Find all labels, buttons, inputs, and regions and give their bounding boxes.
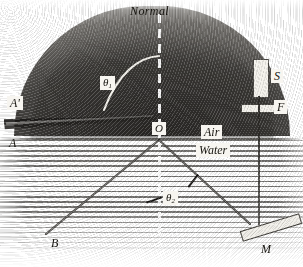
label-filter-f: F	[274, 100, 287, 114]
label-point-m: M	[258, 242, 274, 256]
theta1-subscript: 1	[108, 82, 111, 89]
label-water: Water	[196, 143, 230, 157]
theta2-subscript: 2	[171, 197, 174, 204]
label-source-s: S	[271, 69, 283, 83]
label-point-o: O	[152, 122, 166, 135]
label-point-a: A	[6, 136, 19, 150]
label-air: Air	[201, 125, 222, 139]
refraction-figure: Normal θ1 θ2 O Air Water S F A' A B M	[0, 0, 303, 267]
label-theta2: θ2	[163, 191, 178, 205]
label-normal: Normal	[127, 4, 172, 18]
label-theta1: θ1	[100, 76, 115, 90]
label-point-b: B	[48, 236, 61, 250]
label-point-a-prime: A'	[7, 96, 23, 110]
